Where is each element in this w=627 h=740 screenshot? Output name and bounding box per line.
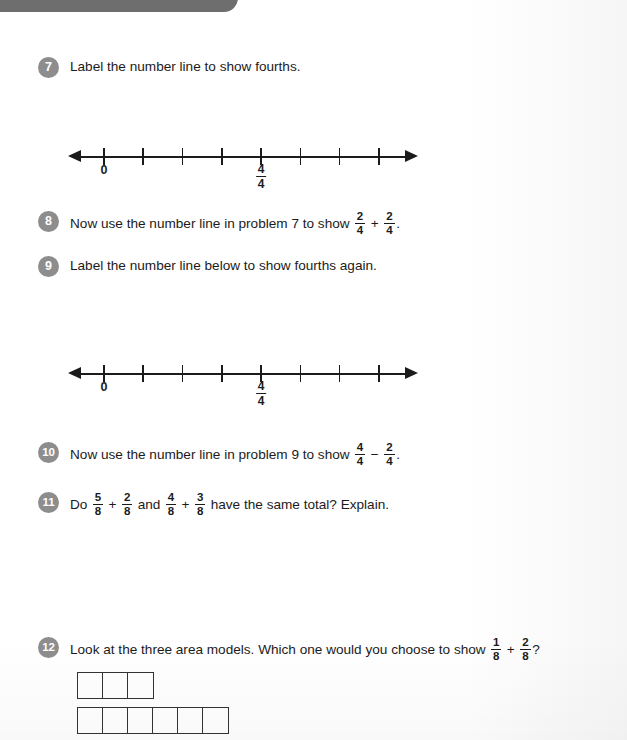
number-line-axis (68, 363, 418, 385)
fraction-numerator: 2 (384, 211, 394, 224)
fraction-denominator: 4 (384, 454, 394, 468)
problem-10: 10Now use the number line in problem 9 t… (38, 442, 400, 468)
problem-text-7: Label the number line to show fourths. (70, 57, 300, 77)
area-model-cell[interactable] (78, 708, 103, 733)
problem-text-10: Now use the number line in problem 9 to … (70, 442, 400, 468)
problem-9: 9Label the number line below to show fou… (38, 256, 377, 277)
arrow-left-icon (68, 150, 81, 162)
number-line-tick-5[interactable] (300, 148, 302, 165)
scan-smudge-artifact (0, 0, 238, 12)
arrow-left-icon (68, 367, 81, 379)
fraction-numerator: 5 (93, 492, 103, 505)
number-line-axis (68, 146, 418, 168)
fraction-numerator: 4 (256, 380, 267, 393)
problem-12: 12Look at the three area models. Which o… (38, 637, 540, 663)
fraction-denominator: 8 (491, 649, 501, 663)
math-operator: + (105, 495, 121, 515)
problem-number-badge-11: 11 (38, 492, 59, 513)
question-text-segment: . (396, 214, 400, 234)
arrow-right-icon (405, 367, 418, 379)
fraction-2-over-4: 24 (355, 211, 365, 237)
fraction-numerator: 4 (166, 492, 176, 505)
fraction-denominator: 8 (195, 504, 205, 518)
number-line-tick-5[interactable] (300, 365, 302, 382)
question-text-segment: Label the number line below to show four… (70, 256, 377, 276)
area-model-1[interactable] (77, 672, 154, 699)
number-line-tick-2[interactable] (182, 148, 184, 165)
number-line-tick-6[interactable] (339, 148, 341, 165)
number-line-label-4: 44 (254, 163, 268, 190)
question-text-segment: Label the number line to show fourths. (70, 57, 300, 77)
problem-7: 7Label the number line to show fourths. (38, 57, 300, 78)
problem-8: 8Now use the number line in problem 7 to… (38, 211, 400, 237)
question-text-segment: Now use the number line in problem 9 to … (70, 445, 353, 465)
problem-number-badge-7: 7 (38, 57, 59, 78)
number-line-tick-1[interactable] (142, 148, 144, 165)
area-model-2[interactable] (77, 707, 229, 734)
question-text-segment: . (396, 445, 400, 465)
fraction-2-over-4: 24 (384, 442, 394, 468)
fraction-2-over-8: 28 (520, 637, 530, 663)
question-text-segment: and (134, 495, 164, 515)
fraction-numerator: 2 (520, 637, 530, 650)
fraction-4-over-8: 48 (166, 492, 176, 518)
problem-text-11: Do 58+28 and 48+38 have the same total? … (70, 492, 389, 518)
problem-number-badge-10: 10 (38, 442, 59, 463)
number-line-tick-6[interactable] (339, 365, 341, 382)
area-model-cell[interactable] (178, 708, 203, 733)
area-model-cell[interactable] (128, 673, 153, 698)
question-text-segment: ? (532, 640, 540, 660)
area-model-cell[interactable] (103, 673, 128, 698)
fraction-numerator: 2 (384, 442, 394, 455)
number-line-tick-2[interactable] (182, 365, 184, 382)
number-line-tick-3[interactable] (221, 365, 223, 382)
number-line-problem-7[interactable]: 044 (68, 131, 418, 187)
problem-number-badge-12: 12 (38, 637, 59, 658)
fraction-denominator: 8 (93, 504, 103, 518)
fraction-denominator: 4 (355, 223, 365, 237)
problem-number-badge-8: 8 (38, 211, 59, 232)
fraction-numerator: 2 (122, 492, 132, 505)
problem-text-9: Label the number line below to show four… (70, 256, 377, 276)
number-line-problem-9[interactable]: 044 (68, 348, 418, 404)
area-model-cell[interactable] (203, 708, 228, 733)
fraction-2-over-4: 24 (384, 211, 394, 237)
area-model-cell[interactable] (128, 708, 153, 733)
fraction-denominator: 4 (355, 454, 365, 468)
fraction-3-over-8: 38 (195, 492, 205, 518)
fraction-denominator: 4 (256, 393, 267, 407)
number-line-tick-7[interactable] (378, 365, 380, 382)
math-operator: + (503, 640, 519, 660)
area-model-cell[interactable] (103, 708, 128, 733)
arrow-right-icon (405, 150, 418, 162)
fraction-5-over-8: 58 (93, 492, 103, 518)
fraction-2-over-8: 28 (122, 492, 132, 518)
number-line-tick-3[interactable] (221, 148, 223, 165)
problem-text-12: Look at the three area models. Which one… (70, 637, 540, 663)
number-line-label-0: 0 (101, 163, 108, 177)
fraction-denominator: 4 (256, 176, 267, 190)
number-line-tick-7[interactable] (378, 148, 380, 165)
question-text-segment: Now use the number line in problem 7 to … (70, 214, 353, 234)
question-text-segment: Do (70, 495, 91, 515)
number-line-segment (80, 373, 406, 375)
fraction-denominator: 4 (384, 223, 394, 237)
fraction-numerator: 4 (355, 442, 365, 455)
fraction-4-over-4: 44 (256, 163, 267, 190)
fraction-denominator: 8 (520, 649, 530, 663)
fraction-denominator: 8 (166, 504, 176, 518)
fraction-4-over-4: 44 (355, 442, 365, 468)
fraction-numerator: 2 (355, 211, 365, 224)
question-text-segment: Look at the three area models. Which one… (70, 640, 489, 660)
problem-11: 11Do 58+28 and 48+38 have the same total… (38, 492, 389, 518)
number-line-label-0: 0 (101, 380, 108, 394)
fraction-numerator: 3 (195, 492, 205, 505)
fraction-4-over-4: 44 (256, 380, 267, 407)
question-text-segment: have the same total? Explain. (207, 495, 389, 515)
area-model-cell[interactable] (78, 673, 103, 698)
number-line-segment (80, 156, 406, 158)
number-line-tick-1[interactable] (142, 365, 144, 382)
fraction-numerator: 4 (256, 163, 267, 176)
problem-text-8: Now use the number line in problem 7 to … (70, 211, 400, 237)
area-model-cell[interactable] (153, 708, 178, 733)
